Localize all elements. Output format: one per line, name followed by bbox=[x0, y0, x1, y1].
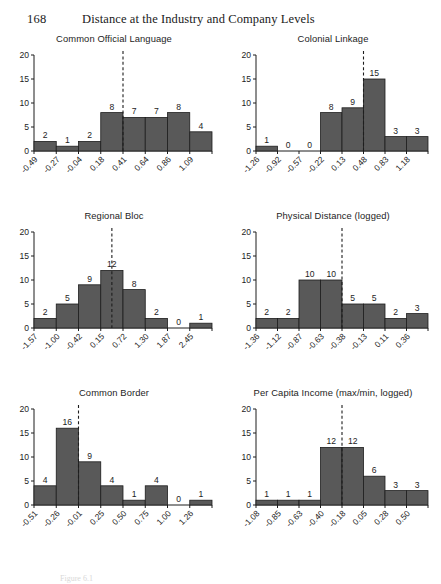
bar-value-label: 10 bbox=[305, 269, 315, 279]
histogram-bar bbox=[256, 146, 278, 151]
bar-value-label: 1 bbox=[132, 489, 137, 499]
y-tick-label: 20 bbox=[19, 50, 29, 60]
histogram-bar bbox=[256, 318, 278, 328]
histogram-bar bbox=[101, 486, 123, 505]
histogram-bar bbox=[145, 117, 167, 151]
y-tick-label: 10 bbox=[19, 452, 29, 462]
x-tick-label: -0.63 bbox=[284, 508, 305, 529]
y-tick-label: 20 bbox=[19, 404, 29, 414]
bar-value-label: 1 bbox=[286, 489, 291, 499]
y-tick-label: 15 bbox=[241, 251, 251, 261]
bar-value-label: 1 bbox=[264, 489, 269, 499]
x-tick-label: -0.22 bbox=[305, 154, 326, 175]
x-tick-label: -0.57 bbox=[284, 154, 305, 175]
chart-title: Physical Distance (logged) bbox=[228, 210, 438, 221]
bar-value-label: 2 bbox=[43, 130, 48, 140]
chart-title: Common Border bbox=[6, 387, 222, 398]
bar-value-label: 0 bbox=[286, 140, 291, 150]
bar-value-label: 2 bbox=[87, 130, 92, 140]
x-tick-label: 1.87 bbox=[154, 331, 173, 350]
bar-value-label: 5 bbox=[350, 293, 355, 303]
x-tick-label: -1.57 bbox=[19, 331, 40, 352]
histogram-bar bbox=[321, 280, 343, 328]
bar-value-label: 4 bbox=[154, 475, 159, 485]
chart-title: Regional Bloc bbox=[6, 210, 222, 221]
y-tick-label: 5 bbox=[246, 122, 251, 132]
y-tick-label: 10 bbox=[241, 275, 251, 285]
y-tick-label: 20 bbox=[241, 404, 251, 414]
histogram-bar bbox=[123, 290, 145, 328]
x-tick-label: 0.50 bbox=[393, 508, 412, 527]
bar-value-label: 5 bbox=[372, 293, 377, 303]
histogram-bar bbox=[123, 500, 145, 505]
y-tick-label: 5 bbox=[24, 122, 29, 132]
x-tick-label: -1.08 bbox=[241, 508, 262, 529]
histogram-bar bbox=[299, 500, 321, 505]
bar-value-label: 7 bbox=[154, 106, 159, 116]
x-tick-label: 0.11 bbox=[372, 331, 390, 349]
x-tick-label: -0.42 bbox=[63, 331, 84, 352]
x-tick-label: -0.38 bbox=[327, 331, 348, 352]
histogram-bar bbox=[299, 280, 321, 328]
x-tick-label: 0.36 bbox=[393, 331, 412, 350]
histogram-bar bbox=[342, 108, 364, 151]
chart-panel-colonial-linkage: Colonial Linkage 05101520100891533-1.26-… bbox=[228, 33, 438, 210]
bar-value-label: 0 bbox=[176, 494, 181, 504]
histogram-bar bbox=[364, 304, 386, 328]
histogram-bar bbox=[145, 486, 167, 505]
x-tick-label: 0.75 bbox=[132, 508, 151, 527]
y-tick-label: 10 bbox=[19, 275, 29, 285]
chart-title: Colonial Linkage bbox=[228, 33, 438, 44]
x-tick-label: -0.49 bbox=[19, 154, 40, 175]
x-tick-label: -0.85 bbox=[262, 508, 283, 529]
bar-value-label: 8 bbox=[132, 279, 137, 289]
chart-panel-common-border: Common Border 05101520416941401-0.51-0.2… bbox=[6, 387, 222, 567]
bar-value-label: 4 bbox=[43, 475, 48, 485]
y-tick-label: 10 bbox=[19, 98, 29, 108]
y-tick-label: 15 bbox=[19, 428, 29, 438]
x-tick-label: 0.28 bbox=[372, 508, 391, 527]
x-tick-label: 0.72 bbox=[110, 331, 129, 350]
histogram-bar bbox=[168, 113, 190, 151]
x-tick-label: 0.64 bbox=[132, 154, 151, 173]
x-tick-label: -1.26 bbox=[241, 154, 262, 175]
y-tick-label: 15 bbox=[241, 428, 251, 438]
y-tick-label: 5 bbox=[24, 476, 29, 486]
bar-value-label: 1 bbox=[65, 135, 70, 145]
chart-title: Per Capita Income (max/min, logged) bbox=[228, 387, 438, 398]
bar-value-label: 2 bbox=[43, 307, 48, 317]
x-tick-label: 0.41 bbox=[110, 154, 129, 173]
x-tick-label: -0.87 bbox=[284, 331, 305, 352]
histogram-bar bbox=[321, 113, 343, 151]
x-tick-label: 0.83 bbox=[372, 154, 391, 173]
x-tick-label: 1.09 bbox=[177, 154, 196, 173]
bar-value-label: 5 bbox=[65, 293, 70, 303]
chart-plot-area: 051015201111212633-1.08-0.85-0.63-0.40-0… bbox=[228, 401, 438, 561]
histogram-bar bbox=[364, 79, 386, 151]
x-tick-label: 1.18 bbox=[393, 154, 412, 173]
bar-value-label: 2 bbox=[154, 307, 159, 317]
bar-value-label: 2 bbox=[393, 307, 398, 317]
chart-plot-area: 05101520100891533-1.26-0.92-0.57-0.220.1… bbox=[228, 47, 438, 207]
y-tick-label: 0 bbox=[246, 146, 251, 156]
bar-value-label: 8 bbox=[176, 102, 181, 112]
x-tick-label: -0.51 bbox=[19, 508, 40, 529]
histogram-bar bbox=[278, 500, 300, 505]
figure-caption: Figure 6.1 bbox=[60, 574, 390, 584]
histogram-bar bbox=[256, 500, 278, 505]
y-tick-label: 20 bbox=[241, 227, 251, 237]
y-tick-label: 0 bbox=[246, 500, 251, 510]
histogram-bar bbox=[34, 486, 56, 505]
histogram-bar bbox=[56, 428, 78, 505]
x-tick-label: -0.40 bbox=[305, 508, 326, 529]
histogram-bar bbox=[79, 285, 101, 328]
histogram-bar bbox=[34, 141, 56, 151]
x-tick-label: -0.13 bbox=[348, 331, 369, 352]
y-tick-label: 10 bbox=[241, 98, 251, 108]
bar-value-label: 2 bbox=[286, 307, 291, 317]
histogram-bar bbox=[145, 318, 167, 328]
histogram-bar bbox=[407, 137, 429, 151]
bar-value-label: 15 bbox=[369, 68, 379, 78]
histogram-bar bbox=[407, 491, 429, 505]
x-tick-label: -0.92 bbox=[262, 154, 283, 175]
